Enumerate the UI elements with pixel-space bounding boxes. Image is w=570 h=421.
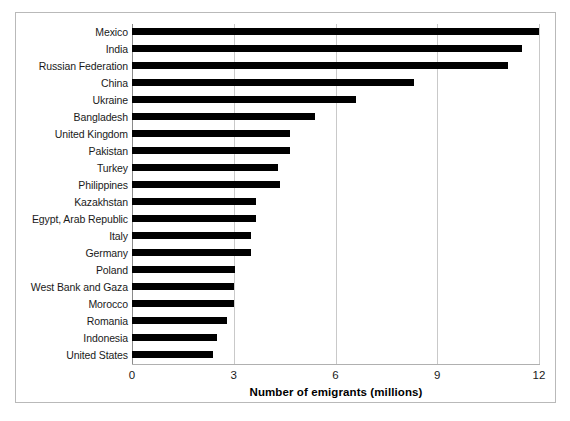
category-label: Kazakhstan: [8, 197, 128, 208]
bar-row: [132, 109, 539, 126]
bar: [132, 28, 539, 35]
bar-row: [132, 194, 539, 211]
bar: [132, 130, 290, 137]
bar: [132, 232, 251, 239]
bar-row: [132, 126, 539, 143]
bar-row: [132, 262, 539, 279]
bar-row: [132, 279, 539, 296]
bar-row: [132, 211, 539, 228]
bar-row: [132, 330, 539, 347]
category-label: United States: [8, 350, 128, 361]
category-label: West Bank and Gaza: [8, 282, 128, 293]
category-label: Philippines: [8, 180, 128, 191]
bar: [132, 147, 290, 154]
category-label: Indonesia: [8, 333, 128, 344]
x-tick-label: 9: [434, 368, 440, 382]
category-label: Germany: [8, 248, 128, 259]
bar: [132, 96, 356, 103]
bar-row: [132, 92, 539, 109]
category-label: Turkey: [8, 163, 128, 174]
bar-row: [132, 143, 539, 160]
bar-row: [132, 177, 539, 194]
category-label: Italy: [8, 231, 128, 242]
category-axis: MexicoIndiaRussian FederationChinaUkrain…: [6, 24, 128, 364]
category-label: Russian Federation: [8, 61, 128, 72]
x-axis-line: [132, 364, 540, 365]
bar: [132, 198, 256, 205]
plot-area: [132, 24, 539, 364]
bar: [132, 79, 414, 86]
bar: [132, 334, 217, 341]
bar-row: [132, 24, 539, 41]
category-label: Morocco: [8, 299, 128, 310]
bar-row: [132, 58, 539, 75]
bar: [132, 164, 278, 171]
x-tick-label: 0: [129, 368, 135, 382]
chart-figure: MexicoIndiaRussian FederationChinaUkrain…: [0, 0, 570, 421]
bar-row: [132, 160, 539, 177]
category-label: Ukraine: [8, 95, 128, 106]
bar: [132, 266, 235, 273]
category-label: Romania: [8, 316, 128, 327]
bar-row: [132, 347, 539, 364]
x-tick-label: 6: [332, 368, 338, 382]
bar: [132, 113, 315, 120]
bar: [132, 249, 251, 256]
bar-row: [132, 313, 539, 330]
bar: [132, 300, 234, 307]
category-label: Egypt, Arab Republic: [8, 214, 128, 225]
bar: [132, 45, 522, 52]
x-tick-label: 3: [231, 368, 237, 382]
category-label: India: [8, 44, 128, 55]
bar-row: [132, 296, 539, 313]
bar-row: [132, 228, 539, 245]
bar: [132, 62, 508, 69]
bar-row: [132, 41, 539, 58]
bar: [132, 181, 280, 188]
category-label: Bangladesh: [8, 112, 128, 123]
gridline-12: [539, 24, 540, 364]
category-label: Mexico: [8, 27, 128, 38]
x-tick-label: 12: [533, 368, 546, 382]
bar-row: [132, 245, 539, 262]
category-label: Poland: [8, 265, 128, 276]
x-axis-title: Number of emigrants (millions): [132, 386, 540, 398]
bar: [132, 215, 256, 222]
bar-row: [132, 75, 539, 92]
category-label: China: [8, 78, 128, 89]
category-label: United Kingdom: [8, 129, 128, 140]
bar: [132, 317, 227, 324]
category-label: Pakistan: [8, 146, 128, 157]
bar: [132, 351, 213, 358]
bar: [132, 283, 234, 290]
